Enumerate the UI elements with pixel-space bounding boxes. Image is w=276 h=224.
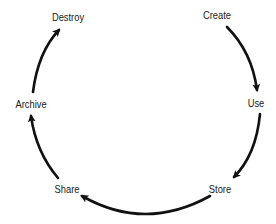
- stage-label-use: Use: [248, 97, 265, 109]
- arrow-share-to-archive: [31, 116, 58, 178]
- stage-label-archive: Archive: [15, 98, 46, 110]
- arrow-store-to-share: [82, 196, 210, 214]
- stage-label-share: Share: [55, 183, 80, 195]
- stage-label-create: Create: [203, 9, 231, 21]
- arrow-use-to-store: [234, 114, 260, 177]
- stage-label-destroy: Destroy: [52, 11, 84, 23]
- arrows-layer: [0, 0, 276, 224]
- stage-label-store: Store: [209, 183, 231, 195]
- lifecycle-diagram: Create Use Store Share Archive Destroy: [0, 0, 276, 224]
- arrow-archive-to-destroy: [33, 30, 59, 92]
- arrow-create-to-use: [227, 27, 257, 90]
